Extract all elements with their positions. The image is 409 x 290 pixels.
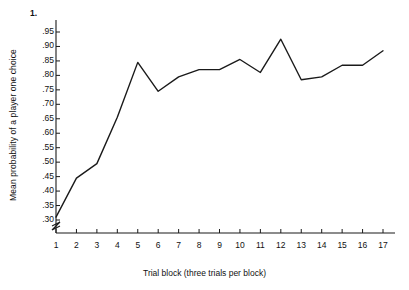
axes [56, 20, 395, 233]
chart-figure: 1. Mean probability of a player one choi… [0, 0, 409, 290]
y-tick-marks [56, 32, 60, 220]
x-tick-marks [56, 229, 383, 233]
data-line-series-1 [56, 39, 383, 217]
plot-area [0, 0, 409, 290]
